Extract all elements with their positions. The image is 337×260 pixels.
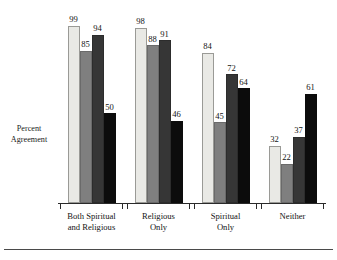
bar-value-label: 84 <box>195 42 221 51</box>
bar <box>147 45 159 203</box>
bar <box>135 28 147 204</box>
bar <box>171 121 183 203</box>
y-axis-label: Percent Agreement <box>0 124 58 145</box>
bar <box>281 164 293 203</box>
bar-group: 98889146 <box>135 6 183 203</box>
bar-value-label: 61 <box>298 83 324 92</box>
bar <box>238 88 250 203</box>
bar-chart-figure: Percent Agreement 9985945098889146844572… <box>0 0 337 260</box>
bar <box>214 122 226 203</box>
bar-value-label: 32 <box>262 135 288 144</box>
bar-value-label: 64 <box>231 78 257 87</box>
y-axis-label-line-2: Agreement <box>0 135 58 146</box>
bar-group: 32223761 <box>269 6 317 203</box>
bar-value-label: 46 <box>164 110 190 119</box>
category-label: Neither <box>251 211 334 222</box>
y-axis-label-line-1: Percent <box>0 124 58 135</box>
category-bracket <box>60 203 123 209</box>
category-bracket <box>194 203 257 209</box>
bar-value-label: 91 <box>152 30 178 39</box>
bar <box>92 35 104 203</box>
bar-group-bars: 84457264 <box>202 6 250 203</box>
category-label-line: Only <box>184 222 267 233</box>
bar <box>159 40 171 203</box>
bar <box>293 137 305 203</box>
bar <box>68 26 80 203</box>
bar <box>80 51 92 203</box>
plot-area: 99859450988891468445726432223761 <box>58 6 326 203</box>
bottom-rule <box>4 249 333 250</box>
category-bracket <box>261 203 324 209</box>
bar-value-label: 98 <box>128 17 154 26</box>
bar <box>104 113 116 203</box>
bar-group-bars: 32223761 <box>269 6 317 203</box>
bar-group: 84457264 <box>202 6 250 203</box>
category-bracket <box>127 203 190 209</box>
bar <box>202 53 214 203</box>
category-label-line: Neither <box>251 211 334 222</box>
bar <box>305 94 317 203</box>
bar-group: 99859450 <box>68 6 116 203</box>
bar-group-bars: 99859450 <box>68 6 116 203</box>
bar-value-label: 94 <box>85 24 111 33</box>
bar-group-bars: 98889146 <box>135 6 183 203</box>
bar <box>226 74 238 203</box>
bar-value-label: 99 <box>61 15 87 24</box>
bar-value-label: 50 <box>97 103 123 112</box>
bar-value-label: 72 <box>219 64 245 73</box>
